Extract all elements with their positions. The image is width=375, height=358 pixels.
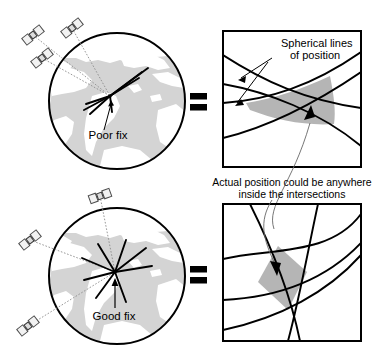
good-fix-label: Good fix (93, 310, 136, 322)
caption-line2: inside the intersections (239, 188, 346, 200)
fix-point-bottom (113, 270, 117, 274)
caption-line1: Actual position could be anywhere (212, 176, 372, 188)
fix-point-top (108, 94, 112, 98)
gps-fix-diagram: Poor fix Spherical lines of position (0, 0, 375, 358)
spherical-lines-label-line1: Spherical lines (281, 37, 353, 49)
poor-fix-label: Poor fix (89, 129, 128, 141)
spherical-lines-label-line2: of position (290, 49, 340, 61)
